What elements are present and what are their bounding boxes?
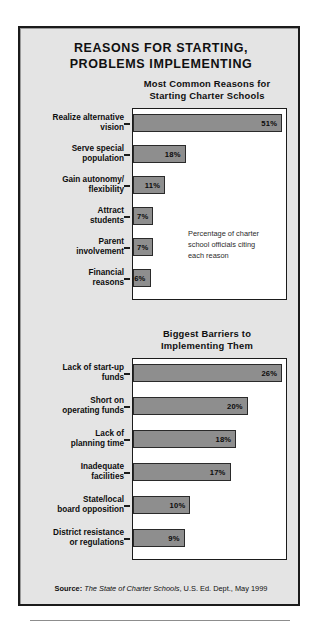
bar-category-label: Lack ofplanning time [4,429,124,449]
chart-2-bars: Lack of start-upfunds26%Short onoperatin… [20,358,302,560]
bar-category-label-line: Gain autonomy/ [4,175,124,185]
bar-category-label-line: funds [4,373,124,383]
bar-category-label-line: students [4,216,124,226]
bar-category-label-line: planning time [4,439,124,449]
bar-category-label-line: Serve special [4,144,124,154]
bar: 17% [133,463,231,481]
bar-category-label-line: reasons [4,278,124,288]
axis-tick [124,373,130,375]
chart-1-annotation-line-2: school officials citing [188,239,296,250]
chart-1-title: Most Common Reasons for Starting Charter… [112,78,302,102]
bar-category-label-line: Inadequate [4,462,124,472]
bar-row: Short onoperating funds20% [20,397,302,415]
bar-row: Realize alternativevision51% [20,114,302,132]
chart-most-common-reasons: Most Common Reasons for Starting Charter… [20,78,302,308]
axis-tick [124,247,130,249]
infographic-panel: REASONS FOR STARTING, PROBLEMS IMPLEMENT… [18,26,300,606]
page-title-line-1: REASONS FOR STARTING, [20,40,302,56]
bar-category-label-line: Lack of start-up [4,363,124,373]
chart-1-bars: Realize alternativevision51%Serve specia… [20,108,302,300]
bar-category-label-line: Realize alternative [4,113,124,123]
bar: 9% [133,529,185,547]
bar-category-label-line: facilities [4,472,124,482]
chart-1-title-line-1: Most Common Reasons for [112,78,302,90]
bar-category-label-line: Financial [4,268,124,278]
bar-value-label: 17% [210,468,226,477]
source-label: Source: [55,584,83,593]
bar-value-label: 9% [168,534,179,543]
axis-tick [124,439,130,441]
chart-2-title-line-1: Biggest Barriers to [112,328,302,340]
bar-category-label-line: Short on [4,396,124,406]
bar: 7% [133,207,153,225]
bar-category-label-line: vision [4,123,124,133]
axis-tick [124,278,130,280]
bar-row: Inadequatefacilities17% [20,463,302,481]
bar-category-label: Parentinvolvement [4,237,124,257]
bar: 11% [133,176,165,194]
page-title-line-2: PROBLEMS IMPLEMENTING [20,56,302,72]
bar: 18% [133,145,186,163]
bar-category-label: Inadequatefacilities [4,462,124,482]
bar-category-label-line: Lack of [4,429,124,439]
page-title: REASONS FOR STARTING, PROBLEMS IMPLEMENT… [20,40,302,72]
bar-category-label-line: State/local [4,495,124,505]
bar-category-label-line: operating funds [4,406,124,416]
bar-category-label: District resistanceor regulations [4,528,124,548]
chart-1-annotation: Percentage of charter school officials c… [188,228,296,261]
bar-value-label: 18% [165,150,181,159]
bar-category-label-line: District resistance [4,528,124,538]
bar: 6% [133,269,151,287]
bar-value-label: 10% [170,501,186,510]
bar-value-label: 26% [261,369,277,378]
bar-category-label: Attractstudents [4,206,124,226]
bar-category-label-line: or regulations [4,538,124,548]
bar-row: Financialreasons6% [20,269,302,287]
bar-row: Attractstudents7% [20,207,302,225]
axis-tick [124,154,130,156]
bar: 20% [133,397,248,415]
bar: 26% [133,364,282,382]
chart-1-title-line-2: Starting Charter Schools [112,90,302,102]
axis-tick [124,472,130,474]
axis-tick [124,538,130,540]
chart-2-title: Biggest Barriers to Implementing Them [112,328,302,352]
bar-category-label: Gain autonomy/flexibility [4,175,124,195]
bar-category-label: Financialreasons [4,268,124,288]
bar: 10% [133,496,190,514]
bar-row: Serve specialpopulation18% [20,145,302,163]
source-title: The State of Charter Schools [84,584,179,593]
bar: 18% [133,430,236,448]
bottom-divider [30,620,290,621]
bar: 51% [133,114,282,132]
bar-row: Lack of start-upfunds26% [20,364,302,382]
bar-category-label: Realize alternativevision [4,113,124,133]
bar-row: Gain autonomy/flexibility11% [20,176,302,194]
bar-row: State/localboard opposition10% [20,496,302,514]
bar-category-label-line: population [4,154,124,164]
bar-value-label: 11% [145,181,160,190]
bar-value-label: 18% [216,435,232,444]
bar-category-label-line: flexibility [4,185,124,195]
bar-row: District resistanceor regulations9% [20,529,302,547]
bar-category-label-line: Attract [4,206,124,216]
bar-category-label-line: Parent [4,237,124,247]
axis-tick [124,216,130,218]
bar-value-label: 51% [261,119,277,128]
bar-value-label: 7% [137,212,148,221]
axis-tick [124,123,130,125]
bar-category-label: Lack of start-upfunds [4,363,124,383]
chart-1-annotation-line-1: Percentage of charter [188,228,296,239]
bar-category-label-line: board opposition [4,505,124,515]
bar-row: Lack ofplanning time18% [20,430,302,448]
axis-tick [124,406,130,408]
bar-value-label: 20% [227,402,243,411]
bar-category-label-line: involvement [4,247,124,257]
bar-value-label: 7% [137,243,148,252]
source-note: Source: The State of Charter Schools, U.… [20,584,302,593]
chart-biggest-barriers: Biggest Barriers to Implementing Them La… [20,328,302,578]
bar-category-label: Serve specialpopulation [4,144,124,164]
chart-2-title-line-2: Implementing Them [112,340,302,352]
axis-tick [124,185,130,187]
bar-category-label: Short onoperating funds [4,396,124,416]
